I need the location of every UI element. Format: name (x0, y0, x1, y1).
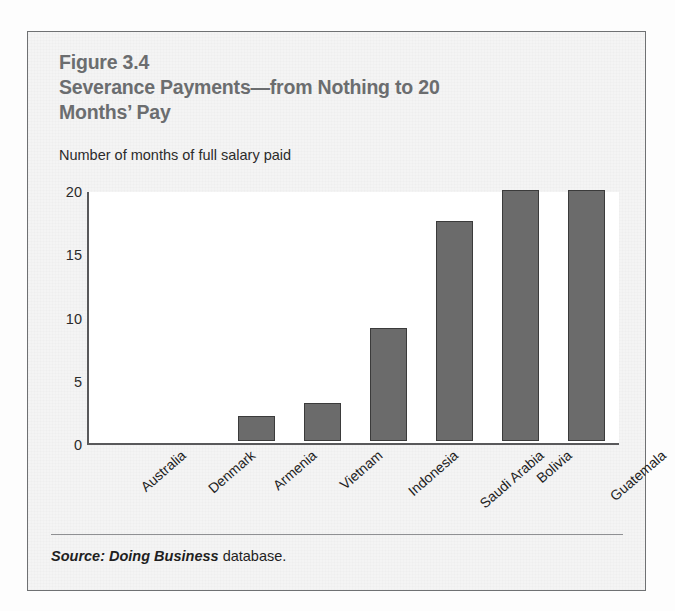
bar-slot (91, 192, 157, 441)
figure-root: Figure 3.4 Severance Payments—from Nothi… (0, 0, 675, 611)
figure-panel: Figure 3.4 Severance Payments—from Nothi… (27, 31, 646, 591)
bar-bolivia[interactable] (502, 190, 539, 441)
source-note: Source: Doing Business database. (51, 548, 286, 564)
figure-title: Figure 3.4 Severance Payments—from Nothi… (59, 50, 479, 125)
figure-subtitle: Number of months of full salary paid (59, 147, 291, 163)
y-axis-tick-label: 20 (66, 184, 82, 200)
bar-group (91, 192, 619, 441)
y-axis-tick-label: 5 (74, 374, 82, 390)
bar-slot (289, 192, 355, 441)
bar-indonesia[interactable] (370, 328, 407, 441)
bar-guatemala[interactable] (568, 190, 605, 441)
figure-title-line-1: Severance Payments—from Nothing to 20 (59, 75, 479, 100)
bar-slot (487, 192, 553, 441)
y-axis-tick-label: 0 (74, 437, 82, 453)
x-axis-label-australia: Australia (138, 447, 190, 495)
bar-slot (553, 192, 619, 441)
x-axis-label-vietnam: Vietnam (336, 447, 385, 493)
bar-slot (421, 192, 487, 441)
source-note-italic: Source: Doing Business (51, 548, 219, 564)
figure-title-line-2: Months’ Pay (59, 100, 479, 125)
y-axis-tick-label: 10 (66, 311, 82, 327)
source-divider (51, 534, 623, 535)
bar-slot (355, 192, 421, 441)
figure-number-label: Figure 3.4 (59, 50, 479, 75)
x-axis-label-saudi-arabia: Saudi Arabia (476, 447, 546, 511)
bar-slot (157, 192, 223, 441)
chart-plot-wrapper: 05101520 (87, 192, 619, 445)
source-note-plain: database. (223, 548, 287, 564)
bar-saudi-arabia[interactable] (436, 221, 473, 441)
chart-plot-area: 05101520 (87, 192, 619, 445)
x-axis-label-denmark: Denmark (205, 447, 258, 496)
x-axis-label-indonesia: Indonesia (405, 447, 461, 499)
bar-slot (223, 192, 289, 441)
bar-armenia[interactable] (238, 416, 275, 441)
y-axis-tick-label: 15 (66, 247, 82, 263)
x-axis-label-armenia: Armenia (270, 447, 320, 493)
x-axis-label-guatemala: Guatemala (607, 447, 669, 504)
bar-vietnam[interactable] (304, 403, 341, 441)
